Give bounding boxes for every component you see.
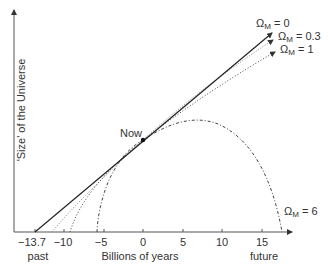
past-label: past [28, 250, 49, 262]
label-omega-1: ΩM = 1 [280, 43, 314, 57]
svg-text:ΩM = 0: ΩM = 0 [256, 17, 290, 31]
curve-omega-0 [35, 33, 272, 232]
svg-text:ΩM = 1: ΩM = 1 [280, 43, 314, 57]
svg-text:−5: −5 [95, 236, 108, 248]
expansion-chart: 'Size' of the Universe −13.7 −10 −5 0 5 … [0, 0, 328, 267]
label-omega-6: ΩM = 6 [284, 205, 318, 219]
svg-text:5: 5 [180, 236, 186, 248]
future-label: future [250, 250, 278, 262]
x-axis-label: Billions of years [101, 250, 179, 262]
curve-omega-0.3 [52, 40, 273, 232]
svg-text:ΩM = 0.3: ΩM = 0.3 [278, 30, 321, 44]
svg-text:−13.7: −13.7 [18, 236, 46, 248]
svg-text:ΩM = 6: ΩM = 6 [284, 205, 318, 219]
x-tick-labels: −13.7 −10 −5 0 5 10 15 [18, 236, 268, 248]
label-omega-0.3: ΩM = 0.3 [278, 30, 321, 44]
svg-text:0: 0 [140, 236, 146, 248]
now-label: Now [120, 127, 142, 139]
y-axis-label: 'Size' of the Universe [15, 59, 27, 162]
label-omega-0: ΩM = 0 [256, 17, 290, 31]
svg-text:−10: −10 [54, 236, 73, 248]
svg-text:10: 10 [216, 236, 228, 248]
svg-text:15: 15 [256, 236, 268, 248]
curve-omega-1 [70, 52, 275, 232]
